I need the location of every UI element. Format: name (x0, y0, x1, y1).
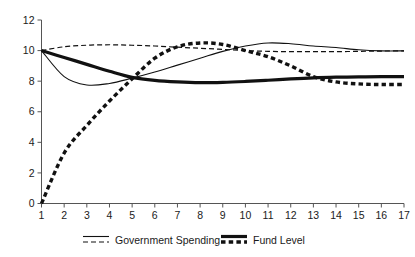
x-tick-label: 13 (308, 209, 320, 221)
legend-label: Fund Level (253, 234, 305, 246)
x-tick-label: 2 (61, 209, 67, 221)
legend-label: Government Spending (115, 234, 220, 246)
y-tick-label: 4 (29, 136, 35, 148)
x-tick-label: 15 (353, 209, 365, 221)
y-tick-label: 8 (29, 75, 35, 87)
line-chart-figure: 024681012 1234567891011121314151617 Gove… (0, 0, 415, 257)
y-tick-label: 12 (23, 14, 35, 26)
x-axis-ticks: 1234567891011121314151617 (39, 204, 410, 222)
x-tick-label: 3 (84, 209, 90, 221)
x-tick-label: 16 (376, 209, 388, 221)
x-tick-label: 5 (129, 209, 135, 221)
x-tick-label: 11 (263, 209, 274, 221)
x-tick-label: 6 (152, 209, 158, 221)
x-tick-label: 14 (330, 209, 342, 221)
y-tick-label: 10 (23, 44, 35, 56)
series-line-thin-solid (42, 43, 405, 86)
x-tick-label: 7 (175, 209, 181, 221)
x-tick-label: 8 (197, 209, 203, 221)
series-line-thick-solid (42, 51, 405, 83)
x-tick-label: 12 (285, 209, 297, 221)
y-axis-ticks: 024681012 (23, 14, 42, 210)
chart-legend: Government SpendingFund Level (83, 234, 305, 246)
y-tick-label: 2 (29, 167, 35, 179)
y-tick-label: 6 (29, 105, 35, 117)
chart-svg: 024681012 1234567891011121314151617 Gove… (0, 0, 415, 257)
x-tick-label: 4 (107, 209, 113, 221)
x-tick-label: 10 (240, 209, 252, 221)
chart-axes (42, 20, 405, 204)
x-tick-label: 1 (39, 209, 45, 221)
legend-item[interactable]: Government Spending (83, 234, 220, 246)
x-tick-label: 17 (398, 209, 410, 221)
chart-series-lines (42, 43, 405, 204)
legend-item[interactable]: Fund Level (221, 234, 305, 246)
x-tick-label: 9 (220, 209, 226, 221)
y-tick-label: 0 (29, 197, 35, 209)
